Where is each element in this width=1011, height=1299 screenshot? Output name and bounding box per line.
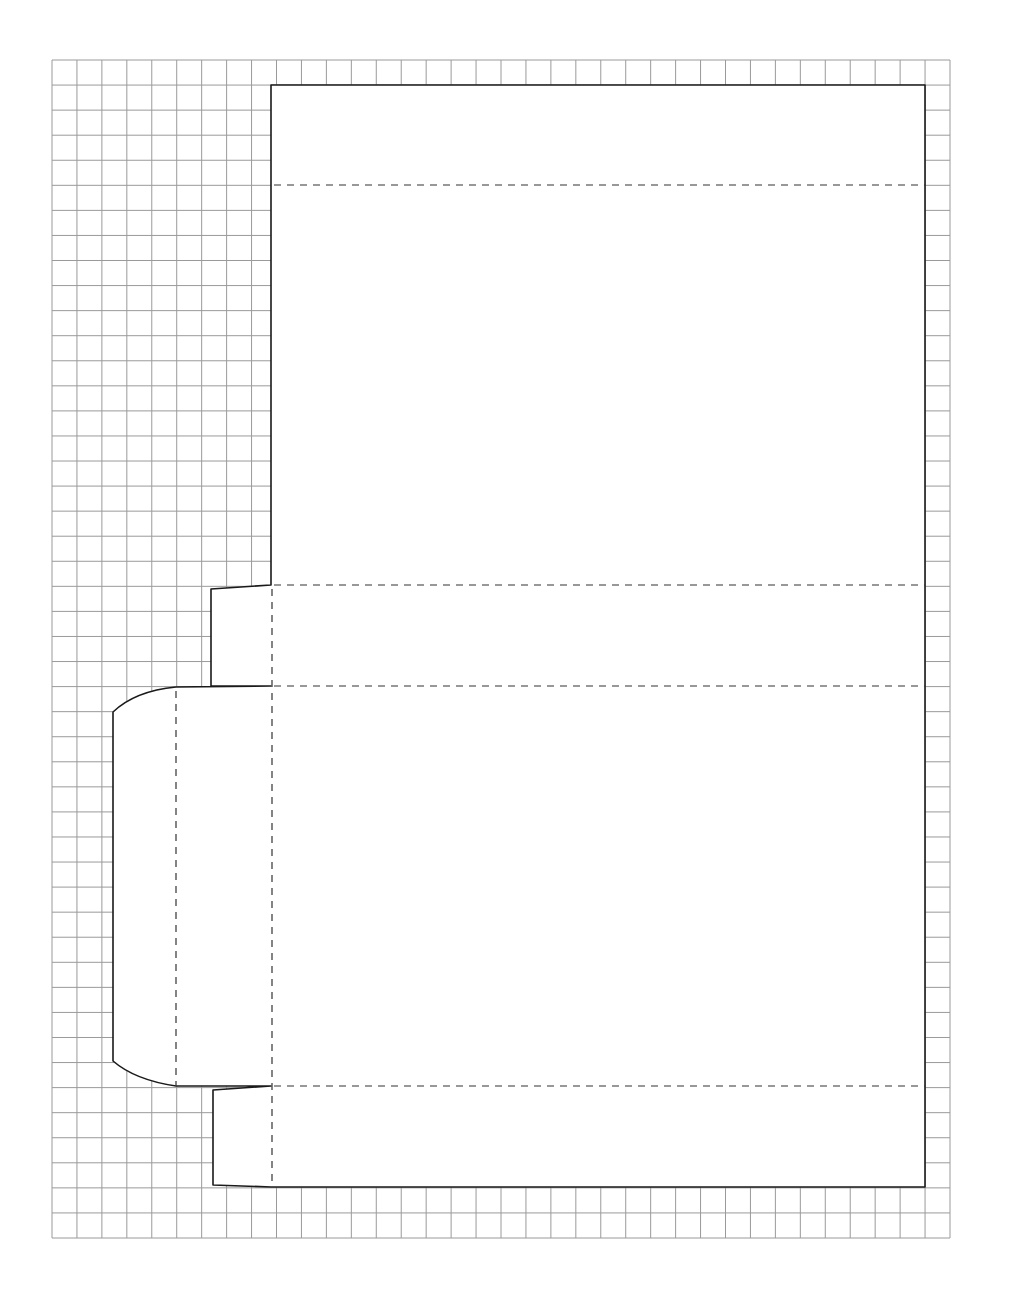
dieline-piece bbox=[113, 85, 925, 1187]
box-template-diagram bbox=[0, 0, 1011, 1299]
cut-outline bbox=[113, 85, 925, 1187]
